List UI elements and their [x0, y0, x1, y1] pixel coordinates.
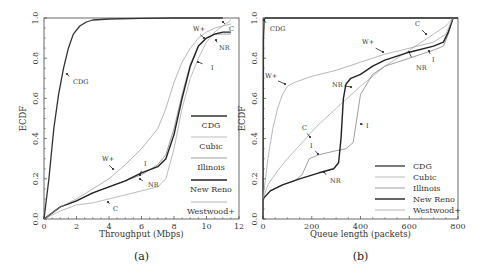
- y-tick-label: 0.2: [31, 172, 40, 185]
- arrow-icon: [376, 48, 383, 52]
- y-tick-label: 0.8: [250, 52, 259, 65]
- annotation-illinois: I: [211, 64, 214, 72]
- arrow-head-icon: [360, 123, 362, 125]
- y-tick-label: 0.0: [31, 213, 40, 226]
- annotation-newreno-b2: NR: [332, 81, 344, 89]
- y-axis-label: ECDF: [237, 106, 247, 132]
- ecdf-figure: 0246810120.00.20.40.60.81.0Throughput (M…: [0, 0, 480, 276]
- y-tick-label: 1.0: [250, 12, 259, 25]
- annotation-illinois-b3: I: [310, 142, 313, 150]
- annotation-cubic-b2: C: [302, 124, 307, 132]
- panel-b: 02004006008000.00.20.40.60.81.0Queue len…: [237, 12, 466, 263]
- annotation-cdg-b: CDG: [270, 25, 285, 33]
- annotation-newreno: NR: [219, 44, 231, 52]
- arrow-head-icon: [107, 201, 109, 203]
- arrow-head-icon: [222, 21, 224, 23]
- arrow-icon: [278, 81, 285, 84]
- annotation-newreno-low: NR: [148, 181, 160, 189]
- arrow-head-icon: [428, 50, 430, 52]
- annotation-cdg: CDG: [73, 78, 88, 86]
- legend-label: CDG: [413, 162, 432, 171]
- arrow-head-icon: [263, 19, 265, 21]
- annotation-cubic: C: [229, 25, 234, 33]
- y-axis-label: ECDF: [18, 106, 28, 132]
- y-tick-label: 0.0: [250, 213, 259, 226]
- legend-label: Illinois: [413, 184, 440, 193]
- annotation-wplus-b: W+: [362, 38, 374, 46]
- x-axis-label: Queue length (packets): [310, 229, 411, 239]
- y-tick-label: 0.6: [31, 92, 40, 105]
- arrow-head-icon: [317, 153, 319, 155]
- x-tick-label: 0: [41, 222, 46, 231]
- arrow-head-icon: [139, 178, 141, 180]
- annotation-illinois-low: I: [144, 160, 147, 168]
- annotation-illinois-b2: I: [366, 122, 369, 130]
- arrow-head-icon: [309, 136, 311, 138]
- x-tick-label: 2: [74, 222, 79, 231]
- annotation-cubic-low: C: [113, 205, 118, 213]
- legend-label: Cubic: [413, 173, 437, 182]
- y-tick-label: 0.6: [250, 92, 259, 105]
- arrow-head-icon: [350, 86, 352, 88]
- legend-label: CDG: [202, 121, 221, 130]
- arrow-head-icon: [323, 171, 325, 173]
- series-line-illinois: [263, 18, 453, 199]
- y-tick-label: 0.4: [31, 132, 40, 145]
- legend-label: Westwood+: [413, 206, 461, 215]
- legend-label: New Reno: [190, 185, 232, 194]
- arrow-head-icon: [197, 61, 199, 63]
- y-tick-label: 0.4: [250, 132, 259, 145]
- annotation-illinois-b: I: [432, 56, 435, 64]
- arrow-head-icon: [215, 39, 217, 41]
- x-tick-label: 10: [201, 222, 211, 231]
- x-tick-label: 12: [234, 222, 244, 231]
- arrow-head-icon: [203, 37, 205, 39]
- annotation-cubic-b: C: [415, 20, 420, 28]
- annotation-wplus: W+: [193, 25, 205, 33]
- legend-label: Illinois: [197, 163, 224, 172]
- legend-label: New Reno: [413, 195, 455, 204]
- x-axis-label: Throughput (Mbps): [99, 229, 183, 239]
- arrow-head-icon: [112, 168, 114, 170]
- annotation-wplus-low: W+: [102, 155, 114, 163]
- y-tick-label: 0.8: [31, 52, 40, 65]
- annotation-newreno-b: NR: [416, 64, 428, 72]
- arrow-head-icon: [284, 83, 286, 85]
- x-tick-label: 800: [450, 222, 465, 231]
- x-tick-label: 0: [260, 222, 265, 231]
- y-tick-label: 1.0: [31, 12, 40, 25]
- legend-label: Cubic: [199, 142, 223, 151]
- panel-caption: (b): [353, 250, 369, 263]
- y-tick-label: 0.2: [250, 172, 259, 185]
- annotation-wplus-b2: W+: [265, 72, 277, 80]
- arrow-head-icon: [425, 33, 427, 35]
- arrow-head-icon: [139, 174, 141, 176]
- panel-a: 0246810120.00.20.40.60.81.0Throughput (M…: [18, 12, 244, 263]
- panel-caption: (a): [134, 250, 149, 263]
- annotation-newreno-b3: NR: [330, 177, 342, 185]
- arrow-head-icon: [408, 51, 410, 53]
- legend-label: Westwood+: [187, 207, 235, 216]
- arrow-head-icon: [66, 73, 68, 75]
- arrow-head-icon: [382, 51, 384, 53]
